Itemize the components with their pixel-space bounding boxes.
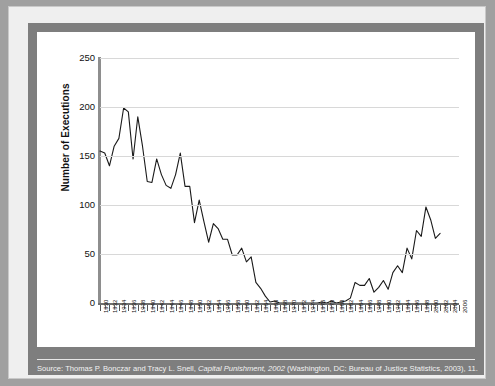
x-tick-1958 [232,305,233,311]
x-label-1946: 1946 [178,300,184,313]
x-label-1930: 1930 [103,300,109,313]
y-tick-150: 150 [61,150,95,161]
x-tick-1948 [185,305,186,311]
x-tick-1952 [204,305,205,311]
x-tick-2002 [440,305,441,311]
x-label-2002: 2002 [443,300,449,313]
x-tick-1940 [147,305,148,311]
x-label-1986: 1986 [367,300,373,313]
x-tick-1962 [251,305,252,311]
x-tick-1932 [109,305,110,311]
y-axis-tick-labels: 050100150200250 [55,32,95,347]
caption-suffix: (Washington, DC: Bureau of Justice Stati… [285,364,478,373]
x-label-1996: 1996 [414,300,420,313]
gridline-150 [100,156,459,157]
x-label-2004: 2004 [452,300,458,313]
x-tick-1976 [317,305,318,311]
figure-mat: Number of Executions 050100150200250 193… [28,23,484,375]
x-tick-1982 [346,305,347,311]
x-label-1982: 1982 [348,300,354,313]
y-tick-200: 200 [61,101,95,112]
x-label-1972: 1972 [301,300,307,313]
x-tick-1970 [289,305,290,311]
x-label-1978: 1978 [329,300,335,313]
x-label-1994: 1994 [405,300,411,313]
x-tick-1986 [365,305,366,311]
x-label-1956: 1956 [225,300,231,313]
x-label-1958: 1958 [235,300,241,313]
gridline-200 [100,107,459,108]
x-tick-1978 [327,305,328,311]
figure-page: Number of Executions 050100150200250 193… [9,7,485,378]
y-tick-100: 100 [61,199,95,210]
x-tick-1984 [355,305,356,311]
x-label-1934: 1934 [121,300,127,313]
x-axis-tick-labels: 1930193219341936193819401942194419461948… [100,313,459,347]
x-label-1940: 1940 [150,300,156,313]
caption-title: Capital Punishment, 2002 [198,364,285,373]
y-tick-250: 250 [61,52,95,63]
caption-divider [37,359,475,360]
x-tick-1960 [242,305,243,311]
x-label-1950: 1950 [197,300,203,313]
x-label-1998: 1998 [424,300,430,313]
x-label-1942: 1942 [159,300,165,313]
x-tick-1934 [119,305,120,311]
x-tick-1968 [280,305,281,311]
x-label-1968: 1968 [282,300,288,313]
x-tick-1954 [213,305,214,311]
x-label-1966: 1966 [273,300,279,313]
x-tick-1988 [374,305,375,311]
x-label-1944: 1944 [169,300,175,313]
x-tick-1950 [194,305,195,311]
x-tick-1944 [166,305,167,311]
x-tick-1992 [393,305,394,311]
x-tick-1990 [383,305,384,311]
x-label-1936: 1936 [131,300,137,313]
source-caption: Source: Thomas P. Bonczar and Tracy L. S… [37,364,475,374]
x-label-1984: 1984 [358,300,364,313]
x-label-1990: 1990 [386,300,392,313]
x-label-2006: 2006 [462,300,468,313]
executions-line-series [100,58,459,303]
x-label-1962: 1962 [254,300,260,313]
x-tick-2000 [431,305,432,311]
x-label-1974: 1974 [310,300,316,313]
gridline-250 [100,58,459,59]
x-label-1948: 1948 [188,300,194,313]
x-label-1992: 1992 [395,300,401,313]
x-tick-1946 [176,305,177,311]
x-label-1952: 1952 [206,300,212,313]
gridline-50 [100,254,459,255]
x-label-1976: 1976 [320,300,326,313]
x-tick-1994 [402,305,403,311]
x-label-1938: 1938 [140,300,146,313]
x-tick-1956 [223,305,224,311]
x-label-1954: 1954 [216,300,222,313]
figure-frame: Number of Executions 050100150200250 193… [0,0,495,386]
plot-canvas [100,58,459,303]
gridline-100 [100,205,459,206]
x-label-2000: 2000 [433,300,439,313]
x-label-1932: 1932 [112,300,118,313]
x-tick-1980 [336,305,337,311]
x-label-1960: 1960 [244,300,250,313]
x-tick-1966 [270,305,271,311]
x-tick-1998 [421,305,422,311]
chart-card: Number of Executions 050100150200250 193… [37,32,475,347]
x-tick-2004 [450,305,451,311]
x-tick-1938 [138,305,139,311]
x-tick-1930 [100,305,101,311]
x-label-1970: 1970 [291,300,297,313]
x-tick-1972 [298,305,299,311]
y-tick-0: 0 [61,297,95,308]
x-label-1988: 1988 [376,300,382,313]
x-label-1980: 1980 [339,300,345,313]
x-tick-1964 [261,305,262,311]
x-tick-2006 [459,305,460,311]
x-tick-1974 [308,305,309,311]
y-tick-50: 50 [61,248,95,259]
x-tick-1942 [157,305,158,311]
x-tick-1936 [128,305,129,311]
caption-prefix: Source: Thomas P. Bonczar and Tracy L. S… [37,364,198,373]
